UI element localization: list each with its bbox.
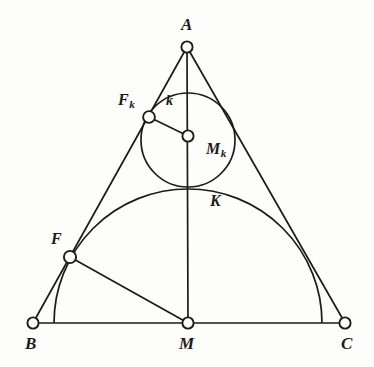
geometry-figure: A B C M Mk Fk F K k [0, 0, 374, 367]
label-fk-base: F [118, 91, 129, 108]
label-f: F [51, 231, 62, 247]
label-m: M [179, 335, 194, 352]
altitude-am [187, 47, 188, 323]
point-c-marker [339, 317, 350, 328]
label-mk-base: M [206, 140, 220, 157]
point-mk-marker [182, 130, 193, 141]
label-fk: Fk [118, 92, 134, 108]
point-fk-marker [143, 111, 155, 123]
geometry-canvas [0, 0, 374, 367]
label-c: C [341, 335, 352, 352]
segment-f-m [70, 257, 188, 323]
point-m-marker [182, 317, 193, 328]
label-b: B [25, 335, 36, 352]
label-mk-subscript: k [221, 147, 227, 159]
triangle-side-ab [33, 47, 187, 323]
point-a-marker [181, 41, 192, 52]
label-k-point: K [210, 193, 221, 209]
label-a: A [181, 16, 192, 33]
label-circle-k: k [166, 94, 173, 108]
point-f-marker [64, 251, 76, 263]
label-mk: Mk [206, 141, 226, 157]
triangle-side-ac [187, 47, 345, 323]
label-fk-subscript: k [129, 98, 135, 110]
point-b-marker [27, 317, 38, 328]
